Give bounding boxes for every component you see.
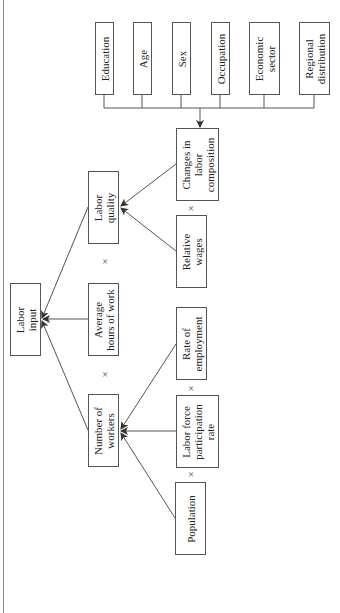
node-changes-in-labor-composition: Changes in labor composition (176, 128, 219, 201)
edge-employment-to-workers (121, 344, 176, 429)
multiply-operator: × (102, 256, 108, 267)
multiply-operator: × (188, 383, 194, 394)
node-number-of-workers: Number of workers (88, 394, 119, 467)
edge-population-to-workers (121, 433, 175, 518)
node-label: Relative wages (180, 233, 204, 270)
node-labor-force-participation-rate: Labor force participation rate (176, 395, 219, 468)
node-rate-of-employment: Rate of employment (176, 307, 207, 380)
node-average-hours: Average hours of work (88, 283, 119, 356)
node-label: Population (185, 495, 197, 543)
node-label: Labor force participation rate (180, 404, 216, 460)
diagram-canvas: Labor input Labor quality Average hours … (0, 0, 340, 613)
node-population: Population (175, 482, 206, 555)
edge-wages-to-quality (121, 208, 176, 251)
node-label: Education (99, 36, 111, 81)
multiply-operator: × (188, 203, 194, 214)
node-labor-input: Labor input (10, 283, 41, 356)
edge-workers-to-input (42, 321, 88, 430)
edge-quality-to-input (42, 207, 88, 318)
node-label: Age (137, 49, 149, 67)
node-regional-distribution: Regional distribution (299, 22, 330, 95)
node-labor-quality: Labor quality (88, 171, 119, 244)
node-label: Average hours of work (92, 289, 116, 351)
node-label: Regional distribution (303, 33, 327, 84)
node-label: Economic sector (253, 36, 277, 81)
node-label: Sex (176, 50, 188, 67)
node-label: Number of workers (92, 407, 116, 455)
multiply-operator: × (102, 369, 108, 380)
node-relative-wages: Relative wages (176, 215, 207, 288)
node-label: Rate of employment (180, 316, 204, 371)
node-label: Occupation (215, 33, 227, 84)
node-age: Age (133, 22, 152, 95)
node-label: Labor quality (92, 192, 116, 223)
node-label: Changes in labor composition (180, 137, 216, 191)
multiply-operator: × (188, 469, 194, 480)
edge-composition-to-quality (121, 164, 176, 206)
node-economic-sector: Economic sector (249, 22, 280, 95)
node-sex: Sex (172, 22, 191, 95)
node-occupation: Occupation (211, 22, 230, 95)
connector-lines (0, 0, 340, 613)
node-education: Education (95, 22, 114, 95)
node-label: Labor input (14, 306, 38, 332)
